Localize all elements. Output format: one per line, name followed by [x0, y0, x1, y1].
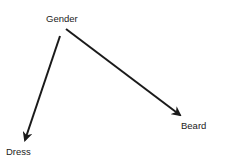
edge-gender-beard [66, 29, 180, 115]
node-dress: Dress [6, 146, 31, 157]
diagram-canvas [0, 0, 233, 159]
node-beard: Beard [181, 120, 206, 131]
node-gender: Gender [46, 13, 78, 24]
edge-gender-dress [25, 36, 60, 140]
